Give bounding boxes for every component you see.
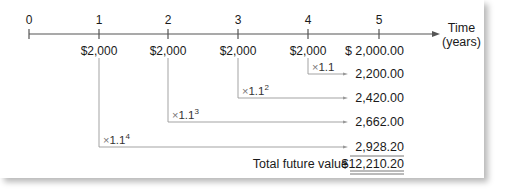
axis-title-line2: (years) bbox=[442, 35, 481, 49]
payment-year-4: $2,000 bbox=[290, 44, 327, 58]
growth-factor-2: ×1.12 bbox=[242, 83, 269, 97]
total-label: Total future value bbox=[253, 157, 348, 171]
future-value-year-4: 2,200.00 bbox=[355, 67, 404, 81]
tick-label-3: 3 bbox=[235, 13, 242, 27]
payment-year-2: $2,000 bbox=[150, 44, 187, 58]
future-value-year-1: 2,928.20 bbox=[355, 140, 404, 154]
tick-label-2: 2 bbox=[165, 13, 172, 27]
future-value-year-2: 2,662.00 bbox=[355, 115, 404, 129]
payment-year-1: $2,000 bbox=[81, 44, 118, 58]
total-value: $12,210.20 bbox=[341, 157, 404, 171]
growth-factor-1: ×1.1 bbox=[312, 61, 334, 73]
tick-label-4: 4 bbox=[305, 13, 312, 27]
growth-factor-3: ×1.13 bbox=[172, 107, 199, 121]
payment-year-3: $2,000 bbox=[220, 44, 257, 58]
axis-title: Time (years) bbox=[442, 21, 481, 49]
tick-label-5: 5 bbox=[376, 13, 383, 27]
payment-year-5: $ 2,000.00 bbox=[345, 44, 404, 58]
growth-factor-4: ×1.14 bbox=[103, 132, 130, 146]
tick-label-0: 0 bbox=[26, 13, 33, 27]
future-value-year-3: 2,420.00 bbox=[355, 91, 404, 105]
tick-label-1: 1 bbox=[96, 13, 103, 27]
axis-title-line1: Time bbox=[442, 21, 481, 35]
